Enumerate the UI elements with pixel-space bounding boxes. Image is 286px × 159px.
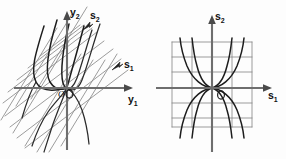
label-s1: s1: [268, 89, 278, 103]
axes-group: [156, 15, 272, 152]
panel-physical-plane: y2 y1 s2 s1 O: [0, 0, 143, 159]
label-y1: y1: [128, 93, 138, 107]
label-s2: s2: [215, 10, 225, 24]
panel-parameter-plane: s2 s1 O: [143, 0, 286, 159]
s1-pointer-arrow-icon: [112, 62, 123, 70]
label-y2: y2: [70, 6, 80, 20]
horizontal-axis-arrowhead: [124, 84, 133, 92]
figure-root: y2 y1 s2 s1 O: [0, 0, 286, 159]
label-s2-family: s2: [90, 9, 100, 23]
grid-family-steep: [1, 7, 117, 152]
label-origin-left: O: [58, 89, 65, 99]
label-s1-family: s1: [124, 58, 134, 72]
